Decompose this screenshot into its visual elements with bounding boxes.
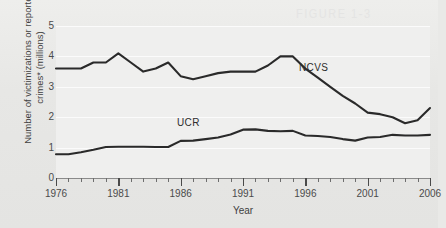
x-tick-1995 <box>293 178 294 182</box>
line-series-ncvs <box>56 53 430 123</box>
y-axis-title: Number of victimizations or reported cri… <box>22 0 45 148</box>
x-tick-label-2006: 2006 <box>410 188 446 199</box>
x-tick-2006 <box>430 178 431 186</box>
x-tick-1978 <box>81 178 82 182</box>
x-tick-1984 <box>156 178 157 182</box>
x-tick-1985 <box>168 178 169 182</box>
series-label-ncvs: NCVS <box>299 62 328 73</box>
x-tick-2003 <box>393 178 394 182</box>
x-tick-1979 <box>93 178 94 182</box>
x-tick-2005 <box>418 178 419 182</box>
x-tick-label-2001: 2001 <box>348 188 388 199</box>
x-tick-1976 <box>56 178 57 186</box>
x-tick-1982 <box>131 178 132 182</box>
x-tick-1992 <box>255 178 256 182</box>
x-tick-1983 <box>143 178 144 182</box>
x-tick-2001 <box>368 178 369 186</box>
y-tick-label-0: 0 <box>32 173 54 183</box>
chart-svg <box>56 26 430 178</box>
x-tick-label-1996: 1996 <box>285 188 325 199</box>
x-tick-1999 <box>343 178 344 182</box>
x-tick-1987 <box>193 178 194 182</box>
plot-area <box>56 26 430 178</box>
x-tick-1998 <box>330 178 331 182</box>
x-tick-label-1981: 1981 <box>98 188 138 199</box>
x-tick-1997 <box>318 178 319 182</box>
x-tick-label-1991: 1991 <box>223 188 263 199</box>
x-tick-2002 <box>380 178 381 182</box>
x-tick-2000 <box>355 178 356 182</box>
x-tick-1993 <box>268 178 269 182</box>
x-tick-label-1976: 1976 <box>36 188 76 199</box>
line-series-ucr <box>56 129 430 154</box>
x-tick-label-1986: 1986 <box>161 188 201 199</box>
x-tick-1996 <box>305 178 306 186</box>
x-tick-1988 <box>206 178 207 182</box>
x-axis-tick-labels: 1976198119861991199620012006 <box>56 188 430 202</box>
x-tick-1981 <box>118 178 119 186</box>
x-tick-1986 <box>181 178 182 186</box>
series-label-ucr: UCR <box>177 117 200 128</box>
x-tick-2004 <box>405 178 406 182</box>
x-tick-1989 <box>218 178 219 182</box>
x-axis-ticks <box>56 178 430 187</box>
x-tick-1977 <box>68 178 69 182</box>
x-tick-1990 <box>231 178 232 182</box>
x-axis-title: Year <box>56 205 430 216</box>
x-tick-1980 <box>106 178 107 182</box>
x-tick-1991 <box>243 178 244 186</box>
x-tick-1994 <box>280 178 281 182</box>
